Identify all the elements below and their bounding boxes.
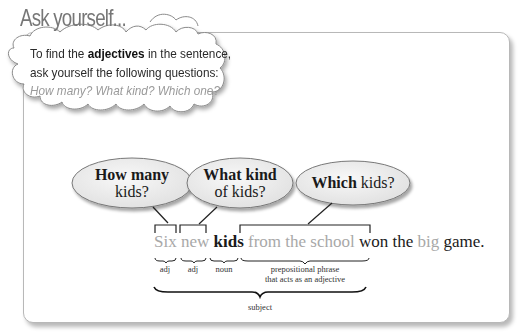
bubble-how-many-text: How many kids? <box>82 166 182 200</box>
label-kids-noun: noun <box>208 264 240 274</box>
bubble-which-normal: kids? <box>357 174 395 191</box>
word-game: game. <box>444 232 485 251</box>
word-kids: kids <box>214 232 244 251</box>
bubble-how-many-bold: How many <box>82 166 182 183</box>
bubble-what-kind-text: What kind of kids? <box>190 166 290 200</box>
bubble-what-kind-bold: What kind <box>190 166 290 183</box>
label-subject: subject <box>235 302 285 312</box>
word-six: Six <box>154 232 177 251</box>
word-new: new <box>181 232 209 251</box>
label-phrase-line1: prepositional phrase <box>245 264 365 274</box>
label-phrase: prepositional phrase that acts as an adj… <box>245 264 365 284</box>
word-won-the: won the <box>359 232 413 251</box>
word-from-the-school: from the school <box>248 232 355 251</box>
label-new-adj: adj <box>180 264 206 274</box>
bubble-what-kind-normal: of kids? <box>190 183 290 200</box>
bubble-which-bold: Which <box>311 174 356 191</box>
label-phrase-line2: that acts as an adjective <box>245 274 365 284</box>
bubble-how-many-normal: kids? <box>82 183 182 200</box>
word-big: big <box>418 232 440 251</box>
example-sentence: Six new kids from the school won the big… <box>154 232 485 252</box>
bubble-which-text: Which kids? <box>300 174 406 191</box>
label-six-adj: adj <box>152 264 178 274</box>
